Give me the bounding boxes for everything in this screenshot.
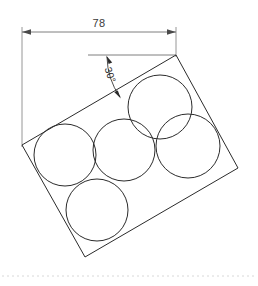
circle-top [128,75,192,139]
drawing-canvas: 78 30° [0,0,258,286]
rotated-rectangle-group [22,55,238,257]
circle-right [156,114,220,178]
angle-arc-bottom-arrowhead-icon [114,90,121,98]
circle-left [34,124,96,186]
left-arrowhead-icon [22,29,31,34]
width-dimension-label: 78 [92,17,105,29]
rotated-rectangle-outline [22,55,238,257]
angle-dimension-label: 30° [103,66,118,84]
circle-middle [93,119,155,181]
technical-drawing-svg: 78 30° [0,0,258,286]
circle-bottom [66,179,128,241]
width-dimension-group: 78 [22,17,176,147]
right-arrowhead-icon [167,29,176,34]
